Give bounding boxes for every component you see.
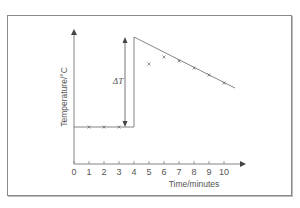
y-axis-title: Temperature/°C [59,67,69,127]
x-tick-label: 10 [219,167,229,177]
x-tick-label: 1 [86,167,91,177]
x-marker [148,63,151,66]
x-axis-tick-labels: 0 1 2 3 4 5 6 7 8 9 10 [71,167,229,177]
x-tick-label: 9 [206,167,211,177]
data-points [88,56,226,129]
x-tick-label: 5 [146,167,151,177]
x-tick-label: 4 [131,167,136,177]
x-tick-label: 8 [191,167,196,177]
x-tick-label: 7 [176,167,181,177]
x-axis-title: Time/minutes [169,179,220,189]
delta-t-arrowhead-bottom [123,121,128,127]
x-tick-label: 6 [161,167,166,177]
x-marker [163,56,166,59]
x-tick-label: 2 [101,167,106,177]
x-tick-label: 0 [71,167,76,177]
cooling-line [134,37,235,88]
temperature-time-chart: 0 1 2 3 4 5 6 7 8 9 10 Time/minutes Temp… [0,0,300,208]
x-tick-label: 3 [116,167,121,177]
delta-t-label: ΔT [112,76,124,86]
delta-t-arrowhead-top [123,37,128,43]
